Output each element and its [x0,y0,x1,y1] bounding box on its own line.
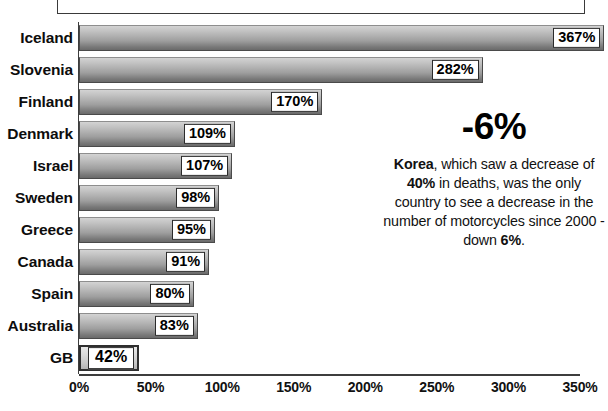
category-label-australia: Australia [8,310,73,342]
bar-value-label: 42% [88,347,134,369]
x-tick-100: 100% [205,379,240,395]
bar-row: Iceland367% [0,22,608,54]
x-tick-0: 0% [69,379,89,395]
bar-value-label: 83% [155,316,194,336]
korea-annotation: -6% Korea, which saw a decrease of 40% i… [383,108,605,250]
bar-value-label: 109% [184,124,231,144]
bar-value-label: 95% [172,220,211,240]
annotation-text-7: . [521,232,525,248]
bar-value-label: 107% [181,156,228,176]
category-label-spain: Spain [31,278,73,310]
bar-chart: Iceland367%Slovenia282%Finland170%Denmar… [0,0,608,411]
bar-iceland: 367% [79,25,604,51]
x-tick-150: 150% [276,379,311,395]
bar-value-label: 80% [150,284,189,304]
bar-row: Australia83% [0,310,608,342]
bar-sweden: 98% [79,185,219,211]
bar-canada: 91% [79,249,209,275]
bar-row: Spain80% [0,278,608,310]
annotation-headline: -6% [383,108,605,146]
x-tick-250: 250% [419,379,454,395]
bar-row: Canada91% [0,246,608,278]
category-label-israel: Israel [33,150,73,182]
bar-australia: 83% [79,313,198,339]
bar-value-label: 91% [166,252,205,272]
category-label-greece: Greece [21,214,73,246]
bar-row: Slovenia282% [0,54,608,86]
category-label-canada: Canada [18,246,73,278]
bar-value-label: 367% [553,28,600,48]
x-axis-line [79,374,580,376]
x-tick-350: 350% [562,379,597,395]
category-label-slovenia: Slovenia [10,54,73,86]
bar-gb: 42% [79,345,139,371]
annotation-bold-40: 40% [407,175,435,191]
category-label-iceland: Iceland [20,22,73,54]
bar-finland: 170% [79,89,322,115]
annotation-bold-6: 6% [501,232,521,248]
bar-value-label: 282% [432,60,479,80]
bar-value-label: 170% [271,92,318,112]
category-label-denmark: Denmark [7,118,73,150]
annotation-text-1: , which saw a decrease [434,156,579,172]
x-tick-300: 300% [491,379,526,395]
bar-spain: 80% [79,281,194,307]
bar-row: GB42% [0,342,608,374]
bar-value-label: 98% [176,188,215,208]
annotation-bold-korea: Korea [394,156,434,172]
bar-israel: 107% [79,153,232,179]
annotation-body: Korea, which saw a decrease of 40% in de… [383,155,605,250]
bar-greece: 95% [79,217,215,243]
category-label-finland: Finland [19,86,73,118]
bar-denmark: 109% [79,121,235,147]
category-label-gb: GB [50,342,73,374]
annotation-text-3: in deaths, was the [435,175,551,191]
annotation-text-2: of [583,156,595,172]
category-label-sweden: Sweden [15,182,73,214]
bar-slovenia: 282% [79,57,483,83]
x-tick-200: 200% [348,379,383,395]
x-tick-50: 50% [137,379,164,395]
